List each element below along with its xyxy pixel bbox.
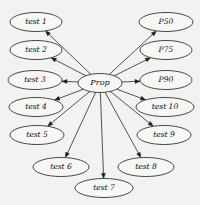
node-label: test 10 [152, 102, 179, 111]
edge-line [68, 92, 96, 153]
graph-edge [54, 89, 83, 100]
edge-arrowhead-icon [51, 58, 57, 62]
node-label: test 9 [153, 130, 175, 139]
node-label: test 5 [26, 130, 48, 139]
node-test-8[interactable]: test 8 [118, 158, 174, 177]
edge-arrowhead-icon [137, 152, 141, 158]
edge-arrowhead-icon [65, 152, 69, 158]
node-label: test 4 [25, 102, 47, 111]
edge-line [56, 60, 86, 76]
node-label: test 2 [25, 45, 47, 54]
node-label: P90 [158, 75, 174, 84]
edge-line [100, 93, 103, 174]
node-test-3[interactable]: test 3 [8, 71, 62, 90]
edge-arrowhead-icon [140, 96, 146, 100]
node-label: test 1 [25, 17, 47, 26]
node-test-4[interactable]: test 4 [9, 98, 63, 117]
node-label: P75 [158, 45, 174, 54]
graph-edge [122, 79, 140, 83]
edge-arrowhead-icon [135, 79, 140, 83]
edge-line [117, 89, 141, 98]
node-p90[interactable]: P90 [140, 71, 192, 90]
node-test-5[interactable]: test 5 [10, 126, 64, 145]
node-test-6[interactable]: test 6 [33, 158, 89, 177]
graph-edge [65, 92, 95, 157]
graph-edge [114, 58, 150, 76]
edge-line [114, 60, 146, 76]
node-test-1[interactable]: test 1 [10, 13, 62, 32]
node-test-9[interactable]: test 9 [137, 126, 191, 145]
edge-line [105, 92, 138, 153]
node-p75[interactable]: P75 [140, 41, 192, 60]
radial-graph: test 1test 2test 3test 4test 5test 6test… [0, 0, 200, 205]
node-label: test 8 [135, 162, 157, 171]
edge-line [59, 89, 83, 98]
node-test-2[interactable]: test 2 [10, 41, 62, 60]
node-label: Prop [89, 77, 110, 87]
edge-line [67, 81, 78, 82]
node-p50[interactable]: P50 [139, 13, 193, 32]
node-test-10[interactable]: test 10 [136, 98, 194, 117]
node-label: P50 [158, 17, 174, 26]
node-test-7[interactable]: test 7 [75, 179, 133, 198]
edge-arrowhead-icon [62, 79, 67, 83]
edge-arrowhead-icon [145, 58, 151, 62]
edge-arrowhead-icon [101, 173, 105, 178]
node-prop[interactable]: Prop [78, 74, 122, 93]
node-label: test 6 [50, 162, 72, 171]
edge-arrowhead-icon [54, 96, 60, 100]
graph-edge [51, 58, 86, 76]
node-label: test 3 [24, 75, 46, 84]
graph-edge [62, 79, 78, 83]
graph-edge [117, 89, 146, 100]
edge-line [122, 81, 135, 82]
graph-edge [100, 93, 105, 179]
node-label: test 7 [93, 183, 115, 192]
diagram-canvas: test 1test 2test 3test 4test 5test 6test… [0, 0, 200, 205]
